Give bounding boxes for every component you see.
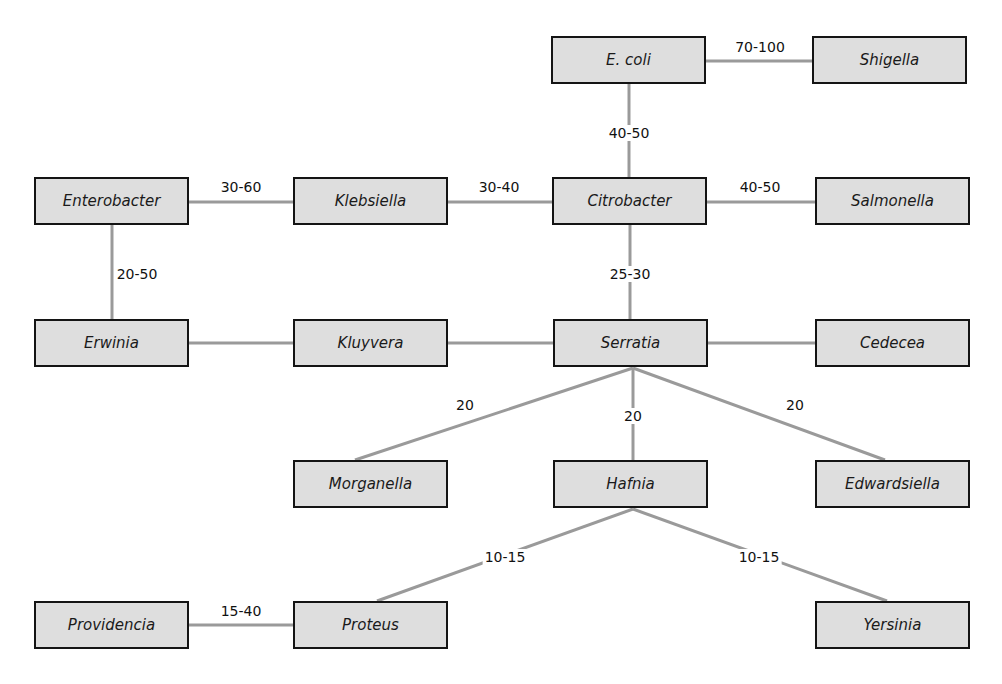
node-label: Yersinia bbox=[864, 616, 922, 634]
edge-label-klebsiella-citrobacter: 30-40 bbox=[477, 179, 522, 195]
node-enterobacter: Enterobacter bbox=[34, 177, 189, 225]
node-morganella: Morganella bbox=[293, 460, 448, 508]
node-label: Morganella bbox=[329, 475, 412, 493]
node-label: Shigella bbox=[860, 51, 919, 69]
node-label: Salmonella bbox=[851, 192, 934, 210]
edge-label-providencia-proteus: 15-40 bbox=[219, 603, 264, 619]
node-ecoli: E. coli bbox=[551, 36, 706, 84]
node-label: Proteus bbox=[342, 616, 399, 634]
node-label: Serratia bbox=[601, 334, 661, 352]
node-label: Klebsiella bbox=[335, 192, 407, 210]
node-label: E. coli bbox=[606, 51, 651, 69]
edge-label-citrobacter-salmonella: 40-50 bbox=[738, 179, 783, 195]
node-label: Kluyvera bbox=[338, 334, 404, 352]
edge-label-enterobacter-erwinia: 20-50 bbox=[115, 266, 160, 282]
node-kluyvera: Kluyvera bbox=[293, 319, 448, 367]
node-hafnia: Hafnia bbox=[553, 460, 708, 508]
node-label: Citrobacter bbox=[587, 192, 671, 210]
edge-label-ecoli-citrobacter: 40-50 bbox=[607, 125, 652, 141]
node-label: Enterobacter bbox=[63, 192, 161, 210]
node-salmonella: Salmonella bbox=[815, 177, 970, 225]
edge-label-enterobacter-klebsiella: 30-60 bbox=[219, 179, 264, 195]
node-yersinia: Yersinia bbox=[815, 601, 970, 649]
edge-label-citrobacter-serratia: 25-30 bbox=[608, 266, 653, 282]
node-label: Providencia bbox=[68, 616, 155, 634]
node-label: Cedecea bbox=[860, 334, 925, 352]
node-klebsiella: Klebsiella bbox=[293, 177, 448, 225]
node-erwinia: Erwinia bbox=[34, 319, 189, 367]
edge-label-hafnia-proteus: 10-15 bbox=[483, 549, 528, 565]
edge-serratia-morganella bbox=[355, 368, 633, 460]
node-cedecea: Cedecea bbox=[815, 319, 970, 367]
edge-serratia-edwardsiella bbox=[633, 368, 885, 460]
node-label: Erwinia bbox=[84, 334, 139, 352]
node-citrobacter: Citrobacter bbox=[552, 177, 707, 225]
node-serratia: Serratia bbox=[553, 319, 708, 367]
node-label: Hafnia bbox=[606, 475, 655, 493]
node-providencia: Providencia bbox=[34, 601, 189, 649]
edge-label-ecoli-shigella: 70-100 bbox=[733, 39, 787, 55]
edge-label-serratia-edwardsiella: 20 bbox=[784, 397, 806, 413]
node-edwardsiella: Edwardsiella bbox=[815, 460, 970, 508]
edge-label-serratia-hafnia: 20 bbox=[622, 408, 644, 424]
node-label: Edwardsiella bbox=[845, 475, 940, 493]
node-shigella: Shigella bbox=[812, 36, 967, 84]
edge-label-serratia-morganella: 20 bbox=[454, 397, 476, 413]
edge-label-hafnia-yersinia: 10-15 bbox=[737, 549, 782, 565]
node-proteus: Proteus bbox=[293, 601, 448, 649]
